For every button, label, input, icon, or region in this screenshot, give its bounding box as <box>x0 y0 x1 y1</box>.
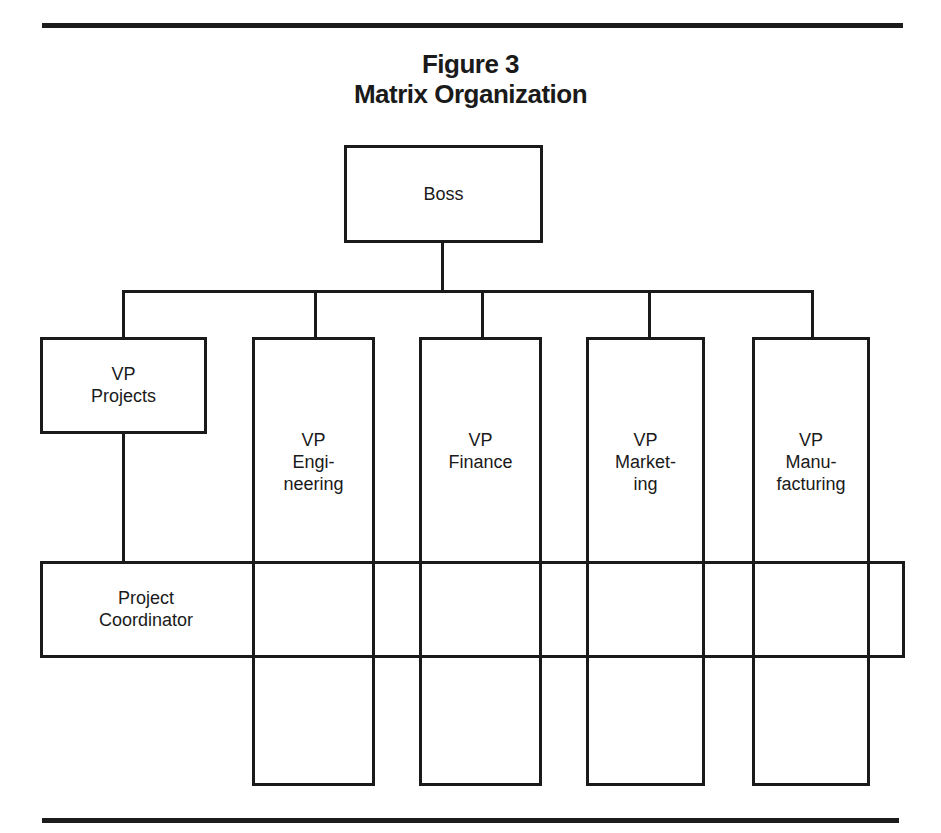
vp-manufacturing-line-1: VP <box>752 429 870 451</box>
vp-marketing-label: VP Market- ing <box>586 429 705 495</box>
branch-drop-manufacturing <box>811 290 814 338</box>
bottom-rule <box>42 818 899 823</box>
project-coordinator-label: Project Coordinator <box>40 587 252 631</box>
vp-engineering-line-3: neering <box>252 473 375 495</box>
vp-engineering-column <box>252 337 375 786</box>
vp-manufacturing-column <box>752 337 870 786</box>
horizontal-branch-line <box>122 290 814 293</box>
boss-label: Boss <box>344 183 543 205</box>
vp-engineering-line-1: VP <box>252 429 375 451</box>
figure-title: Matrix Organization <box>0 80 941 108</box>
project-coordinator-line-1: Project <box>40 587 252 609</box>
vp-projects-line-1: VP <box>40 363 207 385</box>
figure-number: Figure 3 <box>0 50 941 78</box>
projects-to-coordinator-line <box>122 432 125 562</box>
vp-manufacturing-line-2: Manu- <box>752 451 870 473</box>
branch-drop-marketing <box>648 290 651 338</box>
vp-marketing-line-2: Market- <box>586 451 705 473</box>
vp-marketing-line-1: VP <box>586 429 705 451</box>
branch-drop-engineering <box>314 290 317 338</box>
vp-projects-label: VP Projects <box>40 363 207 407</box>
vp-finance-column <box>419 337 542 786</box>
vp-finance-label: VP Finance <box>419 429 542 473</box>
vp-finance-line-1: VP <box>419 429 542 451</box>
vp-manufacturing-label: VP Manu- facturing <box>752 429 870 495</box>
branch-drop-projects <box>122 290 125 338</box>
boss-stem-line <box>441 242 444 293</box>
vp-manufacturing-line-3: facturing <box>752 473 870 495</box>
vp-projects-line-2: Projects <box>40 385 207 407</box>
top-rule <box>42 23 903 28</box>
vp-marketing-line-3: ing <box>586 473 705 495</box>
vp-finance-line-2: Finance <box>419 451 542 473</box>
vp-marketing-column <box>586 337 705 786</box>
vp-engineering-label: VP Engi- neering <box>252 429 375 495</box>
project-coordinator-line-2: Coordinator <box>40 609 252 631</box>
vp-engineering-line-2: Engi- <box>252 451 375 473</box>
branch-drop-finance <box>481 290 484 338</box>
